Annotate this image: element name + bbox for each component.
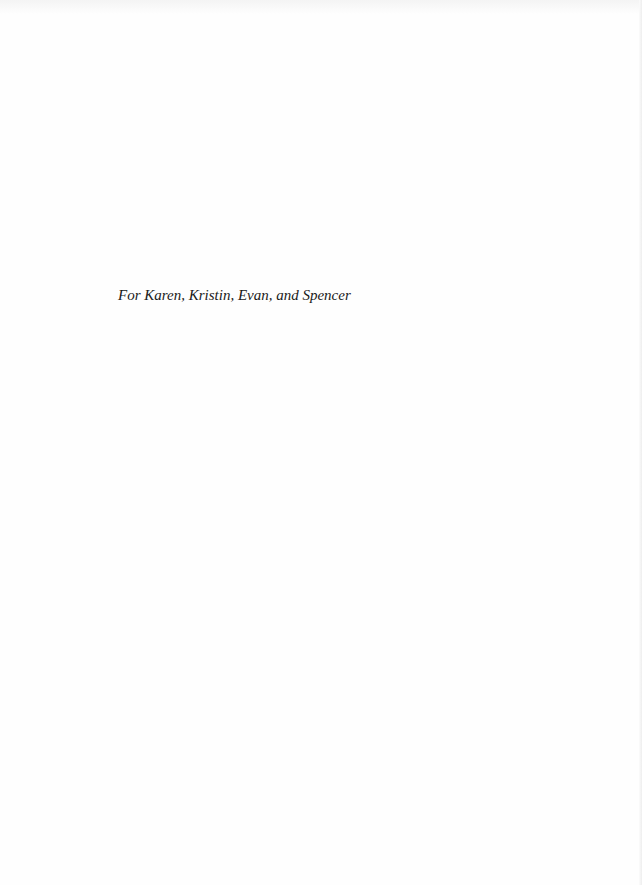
dedication-text: For Karen, Kristin, Evan, and Spencer — [118, 286, 351, 304]
dedication-page: For Karen, Kristin, Evan, and Spencer — [0, 0, 642, 885]
